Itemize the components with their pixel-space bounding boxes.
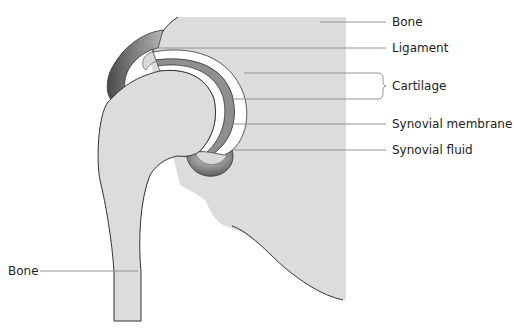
cartilage-brace (378, 73, 386, 99)
label-bone-upper: Bone (392, 15, 423, 29)
label-synovial-fluid: Synovial fluid (392, 143, 473, 157)
label-ligament: Ligament (392, 41, 448, 55)
humerus (98, 70, 215, 321)
label-cartilage: Cartilage (392, 79, 446, 93)
label-bone-lower: Bone (8, 264, 39, 278)
label-synovial-membrane: Synovial membrane (392, 117, 512, 131)
